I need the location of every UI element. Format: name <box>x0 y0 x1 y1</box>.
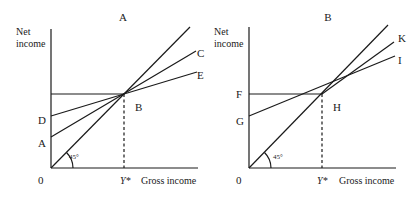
panel-a-y-label-2: income <box>16 38 46 49</box>
panel-a-y-label-1: Net <box>16 26 31 37</box>
panel-b-x-label: Gross income <box>339 175 395 186</box>
panel-a-x-label: Gross income <box>141 175 197 186</box>
panel-a: A Net income 45° B D A C E 0 Y* Gross in… <box>16 11 204 186</box>
panel-b-y-label-2: income <box>214 38 244 49</box>
tax-diagram: A Net income 45° B D A C E 0 Y* Gross in… <box>0 0 420 197</box>
panel-a-point-b: B <box>135 101 142 113</box>
panel-b-point-h: H <box>333 101 341 113</box>
panel-b-origin-label: 0 <box>236 174 242 186</box>
panel-a-angle-label: 45° <box>69 153 79 161</box>
panel-b-title: B <box>324 11 331 23</box>
panel-b-angle-arc <box>265 153 272 169</box>
panel-b-angle-label: 45° <box>273 153 283 161</box>
panel-b-45-degree-line <box>249 25 388 168</box>
panel-b-y-label-1: Net <box>214 26 229 37</box>
panel-b-ystar-label: Y* <box>317 175 328 186</box>
panel-a-label-c: C <box>197 47 204 59</box>
panel-a-title: A <box>119 11 127 23</box>
panel-a-label-e: E <box>197 69 204 81</box>
panel-b: B Net income 45° H F G K I 0 Y* Gross in… <box>214 11 406 186</box>
panel-b-label-k: K <box>398 32 406 44</box>
panel-b-label-i: I <box>398 54 402 66</box>
panel-b-label-g: G <box>236 115 244 127</box>
panel-a-label-d: D <box>38 114 46 126</box>
panel-a-45-degree-line <box>51 27 190 168</box>
panel-a-ystar-label: Y* <box>120 175 131 186</box>
panel-b-label-f: F <box>236 88 242 100</box>
panel-a-origin-label: 0 <box>38 174 44 186</box>
panel-a-label-a: A <box>38 137 46 149</box>
panel-b-line-k <box>322 42 394 94</box>
